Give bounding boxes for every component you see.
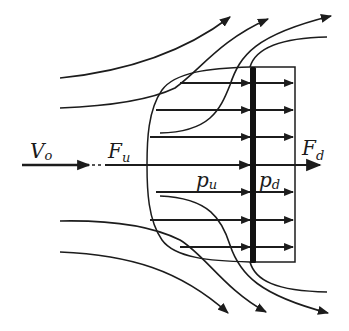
label-freestream-velocity: Vo (30, 139, 52, 163)
streamline-upper-1 (60, 17, 230, 78)
label-upstream-force: Fu (107, 139, 130, 165)
label-downstream-pressure: pd (259, 168, 280, 192)
streamline-upper-2 (60, 19, 268, 108)
streamline-lower-2 (60, 221, 266, 312)
actuator-disc-diagram: Vo Fu Fd pu pd (0, 0, 349, 331)
streamline-lower-1 (60, 252, 228, 313)
actuator-disc (250, 67, 256, 263)
label-downstream-force: Fd (301, 136, 324, 163)
label-upstream-pressure: pu (196, 168, 217, 192)
streamlines-lower (60, 196, 328, 313)
streamline-lower-4 (250, 262, 327, 292)
streamlines-upper (60, 16, 331, 133)
